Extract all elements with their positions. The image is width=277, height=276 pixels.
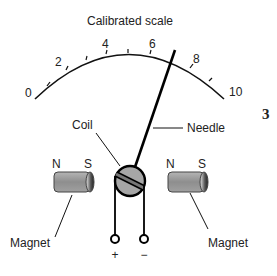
magnet-left-leader-line [55,195,72,237]
terminal-negative [140,235,148,243]
scale-title: Calibrated scale [87,14,173,28]
terminal-negative-label: − [140,248,147,262]
tick-label-4: 4 [102,37,109,51]
coil [115,166,145,196]
tick-label-6: 6 [149,37,156,51]
tick-label-2: 2 [55,55,62,69]
terminal-positive-label: + [111,248,118,262]
tick-label-0: 0 [25,86,32,100]
coil-leader-line [96,133,120,166]
magnet-right-south-label: S [198,157,206,171]
coil-label: Coil [72,118,93,132]
galvanometer-diagram: Calibrated scale 0 2 4 6 8 10 3 Needle C… [0,0,277,276]
tick-label-8: 8 [193,52,200,66]
magnet-right: N S [166,157,208,192]
terminal-positive [111,235,119,243]
magnet-left-north-label: N [52,157,61,171]
tick-label-10: 10 [229,85,243,99]
magnet-left: N S [52,157,94,192]
magnet-right-label: Magnet [208,236,249,250]
needle [134,50,175,170]
magnet-left-label: Magnet [10,236,51,250]
magnet-right-leader-line [190,193,208,229]
figure-number: 3 [262,106,270,122]
magnet-right-north-label: N [166,157,175,171]
needle-label: Needle [187,121,225,135]
magnet-left-south-label: S [84,157,92,171]
